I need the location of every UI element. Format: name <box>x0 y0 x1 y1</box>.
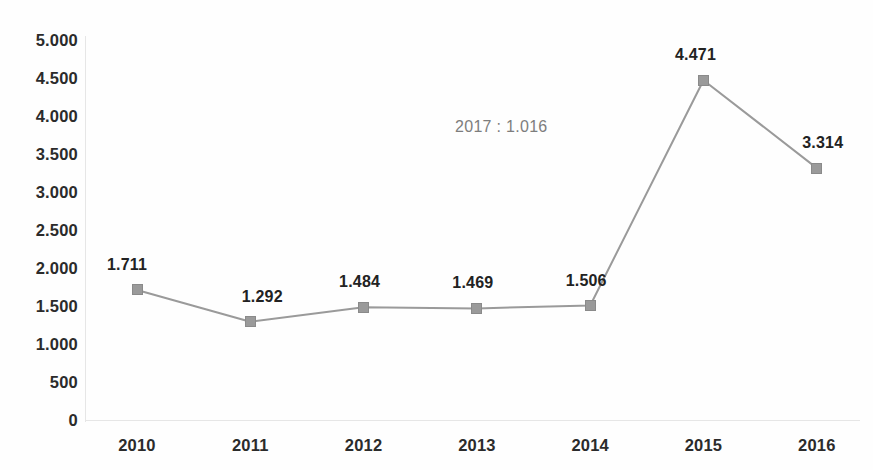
data-point-marker <box>245 316 256 327</box>
data-point-marker <box>358 302 369 313</box>
data-point-label: 1.469 <box>423 274 523 292</box>
chart-page: 5.0004.5004.0003.5003.0002.5002.0001.500… <box>0 0 873 470</box>
data-point-marker <box>698 75 709 86</box>
line-series-plot <box>0 0 873 470</box>
data-point-label: 1.292 <box>212 288 312 306</box>
data-point-label: 1.711 <box>77 256 177 274</box>
data-point-label: 1.506 <box>536 272 636 290</box>
data-point-label: 3.314 <box>773 134 873 152</box>
data-point-marker <box>471 303 482 314</box>
data-point-marker <box>132 284 143 295</box>
data-point-label: 1.484 <box>310 273 410 291</box>
data-point-label: 4.471 <box>646 46 746 64</box>
chart-annotation: 2017 : 1.016 <box>455 118 548 136</box>
data-point-marker <box>811 163 822 174</box>
data-point-marker <box>585 300 596 311</box>
